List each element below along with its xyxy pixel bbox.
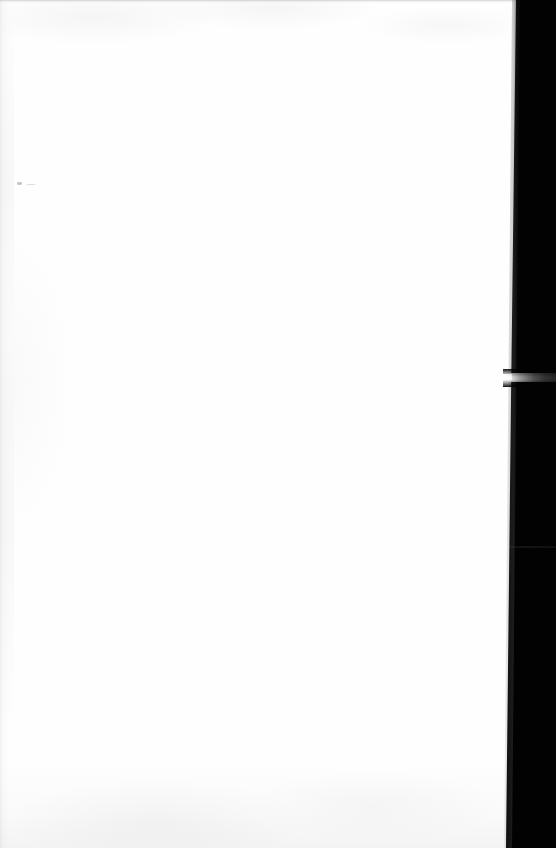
scanned-page-canvas (0, 0, 556, 848)
dust-speck-trail (26, 184, 36, 185)
dust-speck (17, 182, 22, 185)
bottom-edge-smudge (0, 758, 520, 848)
top-edge-line (0, 0, 520, 3)
paper-noise-texture (0, 0, 520, 848)
page-surface (0, 0, 556, 848)
left-edge-streaks (0, 0, 14, 848)
